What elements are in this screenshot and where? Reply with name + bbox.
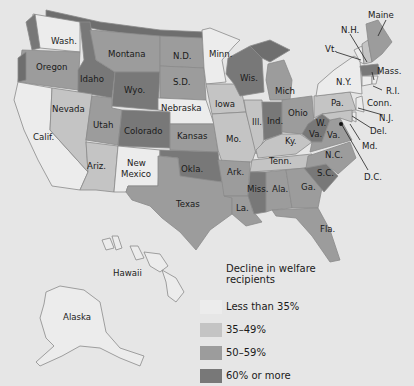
label-minn: Minn.	[209, 49, 232, 59]
label-pa: Pa.	[331, 98, 344, 108]
label-nevada: Nevada	[52, 104, 85, 114]
label-dc: D.C.	[364, 172, 382, 182]
label-ny: N.Y.	[336, 77, 351, 87]
label-hawaii: Hawaii	[113, 268, 142, 278]
label-texas: Texas	[175, 199, 200, 209]
legend-title: Decline in welfare recipients	[226, 263, 346, 285]
legend-label-50-59: 50–59%	[226, 347, 266, 358]
label-newmex-1: New	[127, 158, 146, 168]
state-ny	[316, 56, 362, 96]
label-wva-1: W.	[316, 118, 326, 128]
label-ky: Ky.	[285, 136, 297, 146]
label-ind: Ind.	[267, 116, 283, 126]
label-maine: Maine	[368, 10, 394, 20]
label-wva-2: Va.	[309, 129, 322, 139]
label-ri: R.I.	[386, 86, 400, 96]
state-oregon-coast	[18, 52, 26, 82]
label-md: Md.	[362, 141, 378, 151]
label-colorado: Colorado	[124, 126, 162, 136]
label-ala: Ala.	[272, 184, 288, 194]
label-miss: Miss.	[247, 184, 269, 194]
label-utah: Utah	[93, 120, 113, 130]
label-idaho: Idaho	[80, 74, 104, 84]
label-calif: Calif.	[33, 132, 54, 142]
label-newmex-2: Mexico	[121, 169, 151, 179]
label-fla: Fla.	[320, 224, 335, 234]
legend-label-35-49: 35–49%	[226, 324, 266, 335]
label-montana: Montana	[108, 49, 145, 59]
label-tenn: Tenn.	[268, 156, 292, 166]
label-nj: N.J.	[379, 113, 393, 123]
label-ga: Ga.	[301, 182, 316, 192]
state-conn	[362, 76, 372, 86]
label-mo: Mo.	[226, 134, 241, 144]
label-wis: Wis.	[240, 73, 258, 83]
label-sc: S.C.	[317, 168, 334, 178]
label-mass: Mass.	[377, 66, 401, 76]
label-wyo: Wyo.	[124, 85, 145, 95]
label-wash: Wash.	[51, 36, 77, 46]
label-va: Va.	[327, 130, 340, 140]
dc-marker	[339, 122, 343, 126]
label-sd: S.D.	[173, 77, 191, 87]
legend-label-lt35: Less than 35%	[226, 301, 299, 312]
legend-item-50-59: 50–59%	[226, 341, 406, 364]
state-fla	[272, 208, 340, 262]
label-kansas: Kansas	[177, 131, 208, 141]
legend-swatch-lt35	[200, 300, 222, 314]
label-alaska: Alaska	[63, 312, 91, 322]
state-alaska	[36, 286, 144, 366]
legend-swatch-60plus	[200, 369, 222, 383]
label-ohio: Ohio	[288, 108, 308, 118]
label-ark: Ark.	[227, 167, 244, 177]
label-oregon: Oregon	[36, 62, 68, 72]
label-ariz: Ariz.	[87, 161, 106, 171]
label-del: Del.	[370, 126, 387, 136]
label-ill: Ill.	[252, 117, 262, 127]
label-nebraska: Nebraska	[161, 103, 202, 113]
legend-label-60plus: 60% or more	[226, 370, 291, 381]
legend-swatch-50-59	[200, 346, 222, 360]
label-la: La.	[236, 203, 249, 213]
label-conn: Conn.	[367, 98, 392, 108]
label-mich: Mich	[275, 86, 295, 96]
legend: Decline in welfare recipients Less than …	[226, 263, 406, 386]
label-nc: N.C.	[325, 150, 343, 160]
label-nd: N.D.	[173, 51, 192, 61]
label-nh: N.H.	[341, 25, 359, 35]
label-okla: Okla.	[181, 164, 203, 174]
legend-item-60plus: 60% or more	[226, 364, 406, 386]
welfare-decline-map: Wash. Oregon Calif. Idaho Nevada Montana…	[0, 0, 414, 386]
legend-item-lt35: Less than 35%	[226, 295, 406, 318]
legend-item-35-49: 35–49%	[226, 318, 406, 341]
legend-swatch-35-49	[200, 323, 222, 337]
label-iowa: Iowa	[215, 99, 235, 109]
label-vt: Vt.	[325, 44, 337, 54]
